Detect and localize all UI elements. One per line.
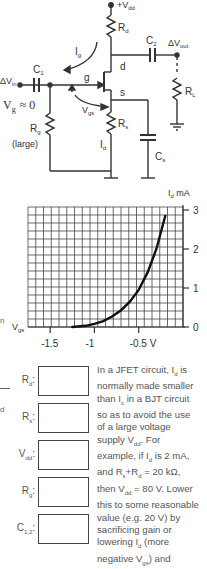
rd-resistor <box>107 15 115 37</box>
rg-resistor <box>46 113 54 135</box>
svg-text:RL: RL <box>185 86 196 98</box>
answer-input-box[interactable] <box>38 440 89 470</box>
rl-resistor <box>173 78 181 100</box>
x-axis-label: Vgs <box>12 322 24 333</box>
svg-text:0: 0 <box>193 322 199 333</box>
note-line: lowering Id (more <box>97 536 207 552</box>
note-line: negative Vgs) and <box>97 553 207 569</box>
svg-text:g: g <box>84 72 90 83</box>
chart-grid <box>28 207 183 327</box>
note-line: value (e.g. 20 V) by <box>97 512 207 524</box>
svg-text:Vg≈ 0: Vg≈ 0 <box>3 98 35 114</box>
svg-text:ΔVout: ΔVout <box>168 38 189 49</box>
note-line: normally made smaller <box>97 380 207 392</box>
svg-text:Cs: Cs <box>155 151 165 163</box>
svg-text:Id: Id <box>100 139 106 151</box>
y-axis-ticks: 0123 <box>183 205 199 333</box>
field-row-c12: C1,2: <box>0 514 95 544</box>
note-line: of a large voltage <box>97 421 207 433</box>
answer-input-box[interactable] <box>38 477 89 507</box>
note-line: and Rs+Rd = 20 kΩ, <box>97 466 207 482</box>
id-vgs-chart: 0123 -1.5-1-0.5 V Id mA Vgs <box>0 178 207 358</box>
y-axis-label: Id mA <box>168 188 190 199</box>
svg-text:d: d <box>120 61 126 72</box>
note-line: this to some reasonable <box>97 499 207 511</box>
svg-text:Rd: Rd <box>118 22 129 34</box>
x-axis-ticks: -1.5-1-0.5 V <box>41 327 157 349</box>
explanation-note: In a JFET circuit, Id isnormally made sm… <box>97 364 207 569</box>
note-line: example, if Id is 2 mA, <box>97 450 207 466</box>
svg-text:+Vdd: +Vdd <box>117 0 135 11</box>
svg-text:s: s <box>120 87 125 98</box>
svg-text:-0.5 V: -0.5 V <box>130 338 157 349</box>
svg-text:-1: -1 <box>85 338 94 349</box>
field-row-rd: Rd: <box>0 366 95 396</box>
field-label: C1,2: <box>17 522 35 535</box>
field-label: Rd: <box>22 374 35 387</box>
note-line: sacrificing gain or <box>97 524 207 536</box>
svg-text:Vgs: Vgs <box>82 105 94 116</box>
note-line: so as to avoid the use <box>97 409 207 421</box>
field-row-rs: Rs: <box>0 403 95 433</box>
field-label: Rs: <box>22 411 35 424</box>
rs-resistor <box>107 112 115 134</box>
svg-text:3: 3 <box>193 205 199 216</box>
svg-text:C1: C1 <box>33 64 44 76</box>
svg-text:(large): (large) <box>12 139 38 149</box>
answer-input-box[interactable] <box>38 514 89 544</box>
field-label: Vdd: <box>19 448 35 461</box>
jfet-circuit-schematic: +Vdd Rd C2 ΔVout Ig d ΔVin C1 g Vg≈ 0 s … <box>0 0 207 180</box>
svg-text:ΔVin: ΔVin <box>0 76 17 87</box>
field-label: Rg: <box>22 485 35 498</box>
note-line: supply Vdd. For <box>97 434 207 450</box>
svg-text:1: 1 <box>193 283 199 294</box>
note-line: then Vdd = 80 V. Lower <box>97 483 207 499</box>
field-row-vdd: Vdd: <box>0 440 95 470</box>
svg-text:Ig: Ig <box>75 46 81 58</box>
answer-input-box[interactable] <box>38 403 89 433</box>
svg-text:-1.5: -1.5 <box>41 338 59 349</box>
side-mark-n: n <box>0 316 4 325</box>
svg-text:2: 2 <box>193 244 199 255</box>
note-line: In a JFET circuit, Id is <box>97 364 207 380</box>
note-line: than Ic in a BJT circuit <box>97 393 207 409</box>
answer-input-box[interactable] <box>38 366 89 396</box>
field-row-rg: Rg: <box>0 477 95 507</box>
svg-text:C2: C2 <box>146 35 157 47</box>
svg-text:Rg: Rg <box>30 123 41 135</box>
svg-text:Rs: Rs <box>118 118 128 130</box>
